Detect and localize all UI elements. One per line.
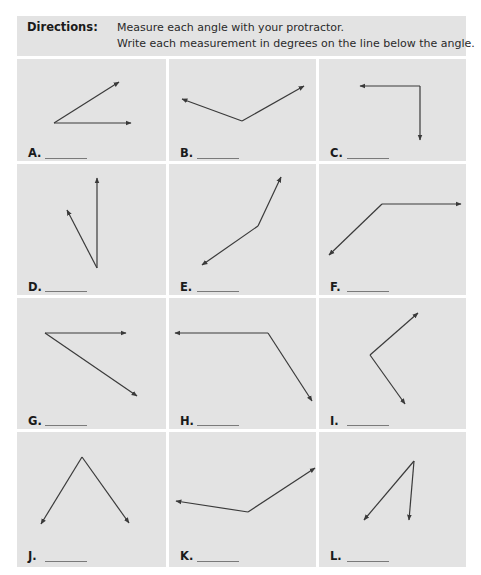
angle-label-k: K.	[180, 549, 193, 563]
angle-cell-c: C.	[319, 59, 466, 161]
angle-cell-a: A.	[17, 59, 166, 161]
answer-line-c[interactable]	[347, 158, 389, 159]
directions-line-1: Measure each angle with your protractor.	[117, 21, 344, 34]
angle-label-i: I.	[330, 414, 339, 428]
angle-cell-b: B.	[169, 59, 316, 161]
answer-line-g[interactable]	[45, 425, 87, 426]
answer-line-f[interactable]	[347, 291, 389, 292]
directions-label: Directions:	[27, 20, 98, 34]
answer-line-a[interactable]	[45, 158, 87, 159]
angle-cell-h: H.	[169, 298, 316, 429]
angle-label-d: D.	[28, 280, 42, 294]
angle-label-b: B.	[180, 146, 193, 160]
angle-cell-f: F.	[319, 164, 466, 295]
answer-line-e[interactable]	[197, 291, 239, 292]
angle-label-j: J.	[28, 549, 37, 563]
angle-cell-k: K.	[169, 432, 316, 567]
angle-cell-d: D.	[17, 164, 166, 295]
answer-line-l[interactable]	[347, 561, 389, 562]
answer-line-d[interactable]	[45, 291, 87, 292]
angle-cell-l: L.	[319, 432, 466, 567]
angle-label-e: E.	[180, 280, 192, 294]
angle-cell-g: G.	[17, 298, 166, 429]
answer-line-b[interactable]	[197, 158, 239, 159]
answer-line-h[interactable]	[197, 425, 239, 426]
angle-label-g: G.	[28, 414, 42, 428]
angle-label-c: C.	[330, 146, 343, 160]
angle-cell-e: E.	[169, 164, 316, 295]
directions-panel: Directions: Measure each angle with your…	[17, 16, 466, 56]
angle-label-a: A.	[28, 146, 41, 160]
answer-line-j[interactable]	[45, 561, 87, 562]
directions-line-2: Write each measurement in degrees on the…	[117, 37, 475, 50]
answer-line-i[interactable]	[347, 425, 389, 426]
angle-cell-i: I.	[319, 298, 466, 429]
angle-label-l: L.	[330, 549, 342, 563]
angle-label-h: H.	[180, 414, 194, 428]
angle-label-f: F.	[330, 280, 341, 294]
angle-cell-j: J.	[17, 432, 166, 567]
answer-line-k[interactable]	[197, 561, 239, 562]
